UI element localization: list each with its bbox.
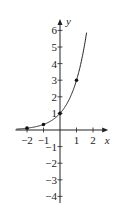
y-tick-label: 5	[52, 41, 58, 53]
data-point	[58, 112, 62, 116]
x-axis-arrow-icon	[102, 128, 108, 133]
y-tick-label: 3	[52, 74, 58, 86]
x-axis-label: x	[104, 134, 110, 146]
y-tick-label: 6	[52, 24, 58, 36]
x-tick-label: 2	[90, 134, 96, 146]
data-point	[25, 126, 29, 130]
y-axis-arrow-icon	[58, 19, 63, 25]
exponential-graph: −2−112−4−3−2−1123456xy	[0, 0, 115, 211]
data-point	[75, 78, 79, 82]
y-tick-label: −4	[45, 190, 57, 202]
y-axis-label: y	[65, 15, 71, 27]
y-tick-label: −1	[45, 141, 57, 153]
x-tick-label: −2	[21, 134, 33, 146]
data-point	[42, 123, 46, 127]
y-tick-label: 2	[52, 91, 58, 103]
y-tick-label: 4	[52, 58, 58, 70]
y-tick-label: −3	[45, 174, 57, 186]
y-tick-label: −2	[45, 157, 57, 169]
x-tick-label: 1	[74, 134, 80, 146]
